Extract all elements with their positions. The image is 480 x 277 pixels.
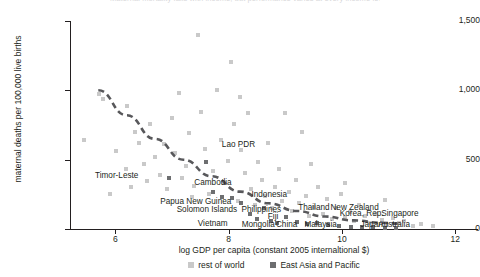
data-point (170, 116, 174, 120)
data-point (211, 169, 215, 173)
data-point (294, 178, 298, 182)
country-label: Australia (378, 220, 410, 229)
y-tick-label: 1,500 (426, 16, 480, 25)
data-point (309, 162, 313, 166)
data-point (383, 198, 387, 202)
data-point (280, 199, 284, 203)
data-point (137, 141, 141, 145)
data-point (283, 111, 287, 115)
data-point (232, 122, 236, 126)
chart-legend: rest of worldEast Asia and Pacific (70, 259, 478, 271)
data-point (256, 160, 260, 164)
data-point (273, 185, 277, 189)
data-point (162, 142, 166, 146)
y-tick (65, 90, 70, 91)
data-point (307, 214, 311, 218)
data-point (343, 181, 347, 185)
data-point (284, 215, 288, 219)
country-label: Vietnam (198, 219, 228, 228)
data-point (165, 187, 169, 191)
legend-swatch-icon (188, 262, 194, 268)
legend-item: rest of world (188, 260, 244, 270)
data-point (129, 185, 133, 189)
data-point (82, 138, 86, 142)
data-point (215, 88, 219, 92)
legend-label: rest of world (198, 260, 244, 270)
y-tick (65, 229, 70, 230)
data-point (260, 178, 264, 182)
data-point (325, 197, 329, 201)
country-label: Korea, Rep. (340, 209, 384, 218)
legend-item: East Asia and Pacific (270, 260, 359, 270)
x-tick-label: 12 (440, 234, 470, 244)
x-tick-label: 8 (214, 234, 244, 244)
y-axis-line (70, 21, 71, 230)
data-point (167, 176, 171, 180)
data-point (290, 209, 294, 213)
clipped-chart-title: Maternal mortality falls with income, bu… (110, 0, 380, 3)
chart-figure: Maternal mortality falls with income, bu… (0, 0, 480, 277)
data-point (125, 104, 129, 108)
country-label: China (276, 220, 297, 229)
country-label: Solomon Islands (177, 205, 238, 214)
data-point (101, 97, 105, 101)
y-tick-label: 500 (426, 155, 480, 164)
data-point (97, 92, 101, 96)
data-point (243, 171, 247, 175)
data-point (287, 190, 291, 194)
data-point (229, 60, 233, 64)
x-axis-line (70, 229, 478, 230)
data-point (226, 159, 230, 163)
legend-label: East Asia and Pacific (280, 260, 359, 270)
data-point (419, 222, 423, 226)
data-point (411, 224, 415, 228)
data-point (339, 192, 343, 196)
data-point (211, 190, 215, 194)
data-point (431, 224, 435, 228)
country-label: Indonesia (251, 190, 287, 199)
data-point (304, 194, 308, 198)
data-point (321, 212, 325, 216)
y-tick (65, 160, 70, 161)
data-point (153, 155, 157, 159)
x-tick-label: 10 (327, 234, 357, 244)
y-tick-label: 1,000 (426, 85, 480, 94)
data-point (277, 167, 281, 171)
data-point (337, 224, 341, 228)
data-point (173, 151, 177, 155)
x-axis-title: log GDP per capita (constant 2005 intern… (70, 245, 478, 255)
data-point (180, 176, 184, 180)
data-point (177, 91, 181, 95)
data-point (145, 179, 149, 183)
y-tick (65, 21, 70, 22)
country-label: Mongolia (242, 220, 275, 229)
country-label: Timor-Leste (95, 171, 138, 180)
data-point (352, 219, 356, 223)
country-label: Cambodia (194, 178, 231, 187)
data-point (238, 95, 242, 99)
data-point (316, 185, 320, 189)
country-label: Thailand (298, 203, 329, 212)
data-point (158, 173, 162, 177)
y-axis-title: maternal deaths per 100,000 live births (13, 9, 23, 209)
country-label: Singapore (381, 209, 418, 218)
data-point (349, 225, 353, 229)
data-point (148, 122, 152, 126)
data-point (204, 160, 208, 164)
country-label: Malaysia (304, 220, 336, 229)
data-point (133, 130, 137, 134)
country-label: Lao PDR (222, 140, 255, 149)
data-point (266, 141, 270, 145)
data-point (184, 164, 188, 168)
data-point (108, 192, 112, 196)
data-point (187, 131, 191, 135)
data-point (114, 149, 118, 153)
data-point (142, 162, 146, 166)
legend-swatch-icon (270, 262, 276, 268)
data-point (246, 111, 250, 115)
data-point (203, 147, 207, 151)
x-tick-label: 6 (100, 234, 130, 244)
data-point (300, 130, 304, 134)
data-point (199, 110, 203, 114)
data-point (196, 33, 200, 37)
